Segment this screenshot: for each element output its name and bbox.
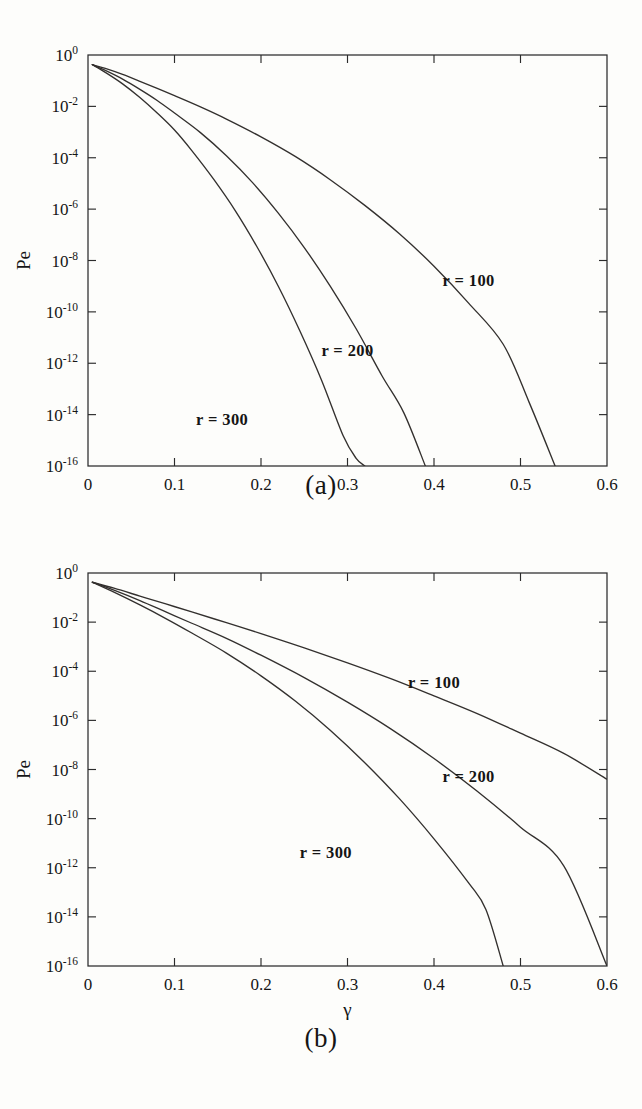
y-tick-label: 10-6: [51, 709, 78, 730]
figure-root: 00.10.20.30.40.50.6γ10010-210-410-610-81…: [0, 0, 642, 1109]
curves-layer: [92, 582, 607, 966]
y-axis-label: Pe: [13, 760, 34, 779]
y-tick-label: 10-8: [51, 250, 78, 271]
curve-100: [92, 582, 607, 779]
y-tick-label: 10-6: [51, 198, 78, 219]
plot-frame: [88, 573, 607, 966]
panel-a: 00.10.20.30.40.50.6γ10010-210-410-610-81…: [0, 0, 642, 555]
panel-b-caption: (b): [0, 1023, 642, 1054]
panel-b: 00.10.20.30.40.50.6γ10010-210-410-610-81…: [0, 518, 642, 1109]
x-tick-label: 0.6: [596, 975, 617, 994]
y-tick-label: 10-4: [51, 660, 78, 681]
y-tick-label: 10-2: [51, 611, 78, 632]
y-tick-label: 10-14: [46, 906, 79, 927]
plot-area-b: 00.10.20.30.40.50.6γ10010-210-410-610-81…: [0, 518, 642, 1038]
curve-label: r = 300: [196, 410, 248, 429]
curve-label: r = 100: [442, 271, 494, 290]
y-tick-label: 10-8: [51, 759, 78, 780]
x-axis-label: γ: [342, 999, 351, 1020]
x-tick-label: 0.5: [510, 975, 531, 994]
y-tick-label: 100: [55, 562, 78, 583]
y-tick-label: 100: [55, 44, 78, 65]
curve-200: [92, 65, 425, 466]
y-tick-label: 10-10: [46, 301, 79, 322]
x-tick-label: 0.3: [337, 975, 358, 994]
curve-label: r = 200: [442, 767, 494, 786]
y-tick-label: 10-12: [46, 857, 79, 878]
curves-layer: [92, 65, 555, 466]
x-tick-label: 0: [84, 975, 93, 994]
y-tick-label: 10-4: [51, 147, 78, 168]
curve-label: r = 200: [321, 341, 373, 360]
curve-100: [92, 65, 555, 466]
y-tick-label: 10-16: [46, 955, 79, 976]
y-tick-label: 10-12: [46, 352, 79, 373]
y-tick-label: 10-2: [51, 95, 78, 116]
curve-label: r = 300: [300, 843, 352, 862]
curve-200: [92, 582, 607, 966]
x-tick-label: 0.2: [250, 975, 271, 994]
curve-300: [92, 65, 364, 466]
y-axis-label: Pe: [13, 251, 34, 270]
curve-label: r = 100: [408, 673, 460, 692]
x-tick-label: 0.4: [423, 975, 445, 994]
y-tick-label: 10-14: [46, 404, 79, 425]
plot-area-a: 00.10.20.30.40.50.6γ10010-210-410-610-81…: [0, 0, 642, 500]
y-tick-label: 10-10: [46, 808, 79, 829]
panel-a-caption: (a): [0, 470, 642, 501]
x-tick-label: 0.1: [164, 975, 185, 994]
plot-frame: [88, 55, 607, 466]
